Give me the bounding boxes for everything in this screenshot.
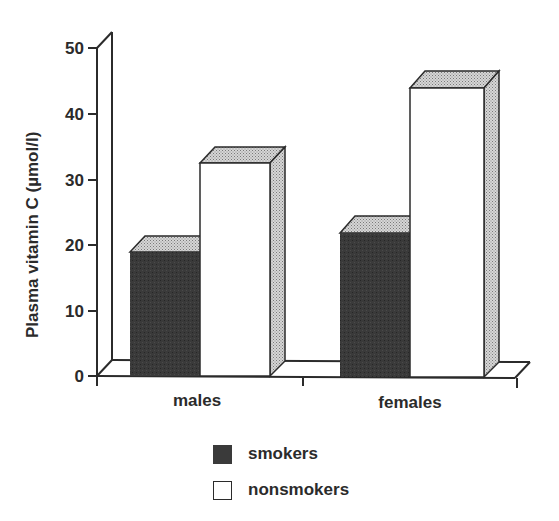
legend-item-smokers: smokers [213, 436, 349, 472]
category-label-females: females [378, 393, 441, 412]
category-label-males: males [173, 391, 221, 410]
legend-item-nonsmokers: nonsmokers [213, 472, 349, 508]
nonsmokers-swatch-icon [213, 481, 232, 500]
legend: smokers nonsmokers [213, 436, 349, 508]
legend-label-smokers: smokers [248, 444, 318, 464]
y-ticks [88, 48, 97, 376]
y-tick-30: 30 [65, 171, 84, 190]
bar-group-males [130, 147, 285, 376]
y-tick-20: 20 [65, 236, 84, 255]
legend-label-nonsmokers: nonsmokers [248, 480, 349, 500]
bar-females-nonsmokers [410, 71, 499, 377]
bar-males-nonsmokers [200, 147, 285, 376]
y-tick-50: 50 [65, 39, 84, 58]
smokers-swatch-icon [213, 445, 232, 464]
y-tick-0: 0 [75, 367, 84, 386]
y-tick-40: 40 [65, 105, 84, 124]
y-tick-10: 10 [65, 302, 84, 321]
y-axis-title: Plasma vitamin C (µmol/l) [23, 132, 42, 338]
bar-group-females [340, 71, 499, 377]
y-tick-labels: 0 10 20 30 40 50 [65, 39, 84, 386]
